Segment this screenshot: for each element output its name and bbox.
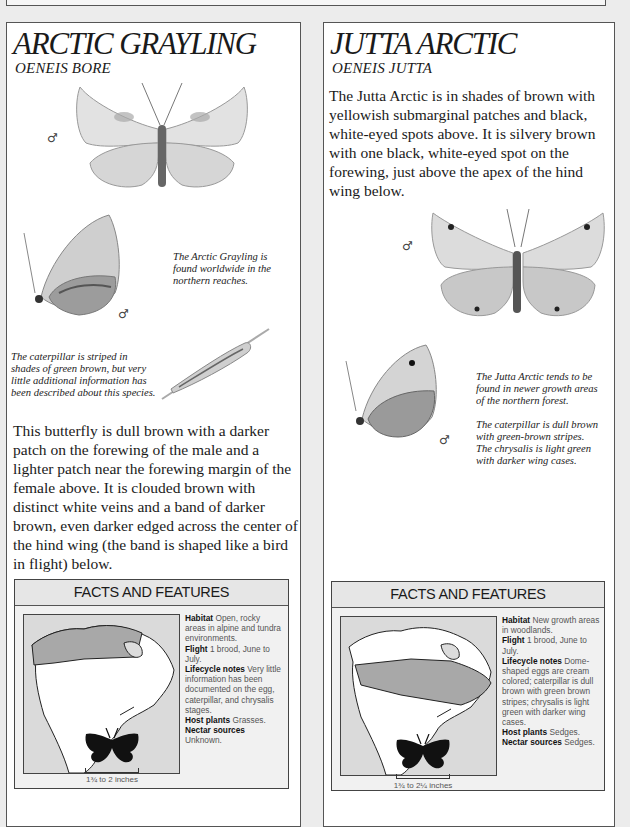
lifecycle-value: Dome-shaped eggs are cream colored; cate… — [502, 656, 593, 727]
lifecycle-label: Lifecycle notes — [185, 664, 245, 674]
species-latin-name: OENEIS BORE — [15, 60, 111, 77]
habitat-label: Habitat — [185, 613, 213, 623]
male-symbol: ♂ — [118, 307, 129, 321]
species-title: JUTTA ARCTIC — [330, 27, 516, 61]
flight-label: Flight — [185, 644, 208, 654]
wingspan-ruler — [396, 774, 450, 779]
male-symbol: ♂ — [402, 239, 413, 253]
facts-text: Habitat Open, rocky areas in alpine and … — [185, 613, 283, 746]
nectar-sources-label: Nectar sources — [502, 737, 562, 747]
butterfly-underside-illustration — [19, 213, 129, 328]
range-caption: The Arctic Grayling is found worldwide i… — [173, 251, 293, 287]
flight-label: Flight — [502, 635, 525, 645]
host-plants-value: Grasses. — [233, 715, 266, 725]
range-caption: The Jutta Arctic tends to be found in ne… — [476, 371, 601, 407]
facts-and-features-box: FACTS AND FEATURES Habitat Open, rocky a… — [14, 579, 289, 789]
lifecycle-label: Lifecycle notes — [502, 656, 562, 666]
wingspan-label: 1¾ to 2 inches — [77, 775, 147, 784]
page-header-strip — [6, 0, 606, 6]
facts-header: FACTS AND FEATURES — [15, 580, 288, 606]
butterfly-silhouette-icon — [395, 734, 451, 770]
facts-text: Habitat New growth areas in woodlands. F… — [502, 615, 600, 748]
nectar-sources-label: Nectar sources — [185, 725, 245, 735]
wingspan-indicator: 1¾ to 2 inches — [77, 728, 147, 784]
species-panel-jutta-arctic: JUTTA ARCTIC OENEIS JUTTA The Jutta Arct… — [323, 22, 615, 827]
host-plants-label: Host plants — [502, 727, 547, 737]
butterfly-upperside-illustration — [429, 205, 609, 325]
caterpillar-caption: The caterpillar is dull brown with green… — [476, 419, 601, 467]
male-symbol: ♂ — [47, 131, 58, 145]
species-description: This butterfly is dull brown with a dark… — [13, 421, 298, 573]
wingspan-label: 1¾ to 2¼ inches — [388, 781, 458, 790]
species-latin-name: OENEIS JUTTA — [332, 60, 432, 77]
host-plants-label: Host plants — [185, 715, 230, 725]
facts-header: FACTS AND FEATURES — [332, 582, 604, 608]
species-panel-arctic-grayling: ARCTIC GRAYLING OENEIS BORE ♂ ♂ The Arct… — [6, 22, 301, 827]
butterfly-upperside-illustration — [72, 83, 252, 193]
butterfly-underside-illustration — [342, 341, 442, 446]
caterpillar-caption: The caterpillar is striped in shades of … — [11, 351, 159, 399]
nectar-sources-value: Sedges. — [564, 737, 594, 747]
wingspan-ruler — [85, 768, 139, 773]
caterpillar-illustration — [157, 321, 272, 401]
habitat-label: Habitat — [502, 615, 530, 625]
species-description: The Jutta Arctic is in shades of brown w… — [329, 86, 611, 200]
nectar-sources-value: Unknown. — [185, 735, 222, 745]
species-title: ARCTIC GRAYLING — [13, 27, 256, 61]
butterfly-silhouette-icon — [84, 728, 140, 764]
facts-and-features-box: FACTS AND FEATURES Habitat New growth ar… — [331, 581, 605, 791]
wingspan-indicator: 1¾ to 2¼ inches — [388, 734, 458, 790]
male-symbol: ♂ — [439, 433, 450, 447]
host-plants-value: Sedges. — [550, 727, 580, 737]
